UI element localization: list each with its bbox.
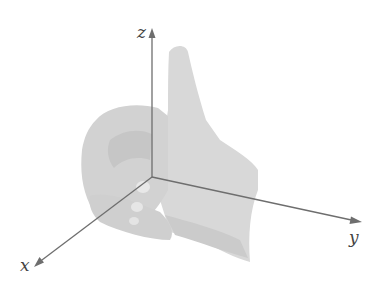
knuckle-highlight-2 <box>131 202 143 212</box>
right-hand-rule-diagram: z y x <box>0 0 379 292</box>
y-axis-arrowhead <box>350 217 363 225</box>
x-axis-arrowhead <box>34 257 44 267</box>
z-axis-label: z <box>137 24 146 41</box>
y-axis-label: y <box>349 229 359 246</box>
hand-illustration <box>81 46 258 262</box>
knuckle-highlight-3 <box>129 217 139 225</box>
diagram-canvas <box>0 0 379 292</box>
x-axis-label: x <box>20 257 30 274</box>
z-axis-arrowhead <box>149 28 156 38</box>
